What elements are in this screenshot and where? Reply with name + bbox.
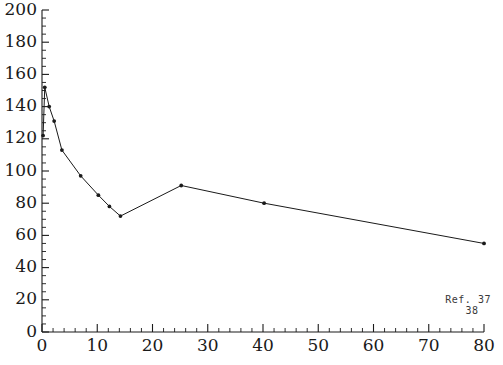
y-tick-label: 140 <box>5 95 37 115</box>
y-tick-label: 120 <box>5 127 37 147</box>
data-point <box>41 134 45 138</box>
x-tick-label: 40 <box>252 335 274 355</box>
data-series-group <box>41 85 486 245</box>
x-tick-label: 80 <box>473 335 495 355</box>
x-tick-label: 50 <box>307 335 329 355</box>
x-tick-label: 20 <box>142 335 164 355</box>
reference-note-line-1: Ref. 37 <box>445 294 491 305</box>
data-point <box>482 242 486 246</box>
series-line-series-1 <box>43 87 484 243</box>
data-point <box>52 119 56 123</box>
data-point <box>47 105 51 109</box>
chart-container: 020406080100120140160180200 010203040506… <box>0 0 503 365</box>
y-tick-label: 160 <box>5 63 37 83</box>
y-tick-label: 20 <box>15 288 37 308</box>
data-point <box>179 184 183 188</box>
data-point <box>96 193 100 197</box>
y-tick-label: 200 <box>5 0 37 19</box>
x-tick-label: 30 <box>197 335 219 355</box>
data-point <box>79 174 83 178</box>
y-tick-label: 180 <box>5 31 37 51</box>
y-tick-label: 0 <box>26 321 37 341</box>
y-tick-label: 60 <box>15 224 37 244</box>
data-point <box>108 205 112 209</box>
data-point <box>43 85 47 89</box>
y-tick-label: 100 <box>5 160 37 180</box>
x-tick-label: 10 <box>86 335 108 355</box>
data-point <box>60 148 64 152</box>
y-tick-label: 80 <box>15 192 37 212</box>
x-tick-label: 60 <box>363 335 385 355</box>
y-tick-label: 40 <box>15 256 37 276</box>
data-point <box>119 214 123 218</box>
annotations-group: Ref. 3738 <box>445 294 491 316</box>
y-axis: 020406080100120140160180200 <box>5 0 49 341</box>
line-chart: 020406080100120140160180200 010203040506… <box>0 0 503 365</box>
x-tick-label: 70 <box>418 335 440 355</box>
data-point <box>262 201 266 205</box>
x-tick-label: 0 <box>37 335 48 355</box>
x-axis: 01020304050607080 <box>37 324 495 355</box>
reference-note-line-2: 38 <box>465 305 478 316</box>
